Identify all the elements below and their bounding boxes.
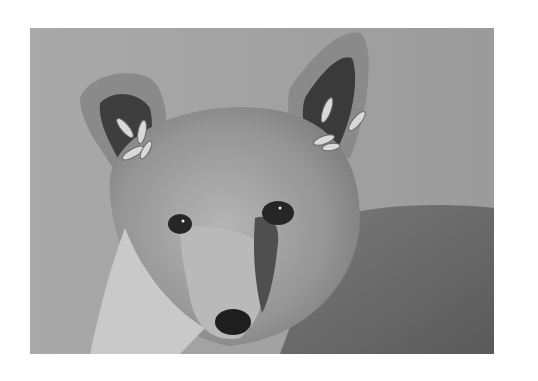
nose: [215, 309, 251, 335]
fox-illustration: [30, 28, 494, 354]
right-eye: [262, 201, 294, 225]
fox-photo: Grayscale photograph of a young fox face…: [30, 28, 494, 354]
left-eye: [168, 214, 192, 234]
